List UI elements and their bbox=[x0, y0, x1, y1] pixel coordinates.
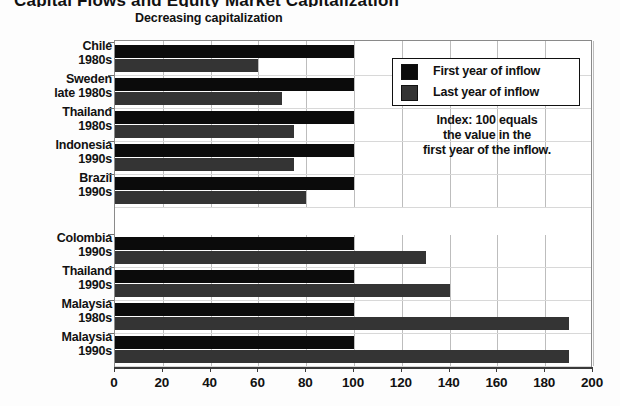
bar-last-year bbox=[115, 284, 450, 297]
bar-row bbox=[115, 268, 591, 301]
category-period: 1990s bbox=[0, 153, 112, 167]
category-period: late 1980s bbox=[0, 87, 112, 101]
x-axis-label: 120 bbox=[381, 375, 421, 390]
x-axis-tick bbox=[257, 367, 258, 372]
y-axis-tick bbox=[108, 174, 114, 175]
bar-last-year bbox=[115, 125, 294, 138]
x-axis-label: 200 bbox=[572, 375, 612, 390]
y-axis-tick bbox=[108, 300, 114, 301]
category-label: Malaysia1980s bbox=[0, 298, 112, 325]
category-label: Swedenlate 1980s bbox=[0, 73, 112, 100]
index-note-line-2: the value in the bbox=[392, 128, 582, 143]
section-caption-decreasing: Decreasing capitalization bbox=[135, 11, 283, 25]
x-axis-tick bbox=[353, 367, 354, 372]
section-gap bbox=[115, 208, 591, 235]
y-axis-tick bbox=[108, 75, 114, 76]
category-country: Thailand bbox=[0, 265, 112, 279]
legend-swatch-first bbox=[401, 64, 418, 80]
x-axis-tick bbox=[114, 367, 115, 372]
category-label: Chile1980s bbox=[0, 40, 112, 67]
x-axis-label: 20 bbox=[142, 375, 182, 390]
x-axis-label: 160 bbox=[476, 375, 516, 390]
bar-last-year bbox=[115, 191, 306, 204]
index-note: Index: 100 equals the value in the first… bbox=[392, 113, 582, 158]
category-period: 1980s bbox=[0, 54, 112, 68]
x-axis-tick bbox=[449, 367, 450, 372]
bar-last-year bbox=[115, 317, 569, 330]
category-period: 1990s bbox=[0, 279, 112, 293]
x-axis-tick bbox=[305, 367, 306, 372]
category-country: Indonesia bbox=[0, 139, 112, 153]
bar-row bbox=[115, 301, 591, 334]
bar-row bbox=[115, 175, 591, 208]
category-label: Colombia1990s bbox=[0, 232, 112, 259]
category-country: Colombia bbox=[0, 232, 112, 246]
y-axis-tick bbox=[108, 108, 114, 109]
category-period: 1980s bbox=[0, 312, 112, 326]
bar-first-year bbox=[115, 78, 354, 91]
x-axis-label: 40 bbox=[190, 375, 230, 390]
category-period: 1990s bbox=[0, 345, 112, 359]
category-period: 1990s bbox=[0, 186, 112, 200]
x-axis-tick bbox=[210, 367, 211, 372]
legend-swatch-last bbox=[401, 85, 418, 101]
category-period: 1980s bbox=[0, 120, 112, 134]
chart-container: Capital Flows and Equity Market Capitali… bbox=[0, 0, 620, 406]
category-country: Malaysia bbox=[0, 298, 112, 312]
index-note-line-3: first year of the inflow. bbox=[392, 143, 582, 158]
bar-first-year bbox=[115, 270, 354, 283]
bar-last-year bbox=[115, 350, 569, 363]
category-country: Chile bbox=[0, 40, 112, 54]
category-country: Thailand bbox=[0, 106, 112, 120]
chart-headline: Capital Flows and Equity Market Capitali… bbox=[14, 0, 614, 7]
category-label: Indonesia1990s bbox=[0, 139, 112, 166]
legend-label: Last year of inflow bbox=[433, 85, 539, 99]
x-axis-tick bbox=[496, 367, 497, 372]
x-axis-label: 140 bbox=[429, 375, 469, 390]
legend: First year of inflowLast year of inflow bbox=[392, 58, 580, 106]
x-axis-label: 0 bbox=[94, 375, 134, 390]
bar-first-year bbox=[115, 237, 354, 250]
y-axis-tick bbox=[108, 141, 114, 142]
x-axis-label: 100 bbox=[333, 375, 373, 390]
bar-first-year bbox=[115, 111, 354, 124]
x-axis-label: 80 bbox=[285, 375, 325, 390]
index-note-line-1: Index: 100 equals bbox=[392, 113, 582, 128]
x-axis-tick bbox=[162, 367, 163, 372]
x-axis-label: 60 bbox=[237, 375, 277, 390]
bar-last-year bbox=[115, 251, 426, 264]
bar-row bbox=[115, 235, 591, 268]
y-axis-tick bbox=[108, 333, 114, 334]
category-label: Thailand1980s bbox=[0, 106, 112, 133]
bar-first-year bbox=[115, 303, 354, 316]
bar-last-year bbox=[115, 59, 258, 72]
bar-first-year bbox=[115, 177, 354, 190]
y-axis-tick bbox=[108, 42, 114, 43]
category-country: Brazil bbox=[0, 172, 112, 186]
bar-first-year bbox=[115, 144, 354, 157]
category-period: 1990s bbox=[0, 246, 112, 260]
category-country: Sweden bbox=[0, 73, 112, 87]
bar-first-year bbox=[115, 45, 354, 58]
bar-row bbox=[115, 334, 591, 367]
category-label: Brazil1990s bbox=[0, 172, 112, 199]
bar-first-year bbox=[115, 336, 354, 349]
category-label: Malaysia1990s bbox=[0, 331, 112, 358]
y-axis-tick bbox=[108, 267, 114, 268]
x-axis-tick bbox=[401, 367, 402, 372]
bar-last-year bbox=[115, 92, 282, 105]
category-label: Thailand1990s bbox=[0, 265, 112, 292]
legend-label: First year of inflow bbox=[433, 64, 540, 78]
bar-last-year bbox=[115, 158, 294, 171]
category-country: Malaysia bbox=[0, 331, 112, 345]
x-axis-tick bbox=[592, 367, 593, 372]
gridline bbox=[593, 41, 594, 366]
x-axis-tick bbox=[544, 367, 545, 372]
y-axis-tick bbox=[108, 234, 114, 235]
x-axis-label: 180 bbox=[524, 375, 564, 390]
